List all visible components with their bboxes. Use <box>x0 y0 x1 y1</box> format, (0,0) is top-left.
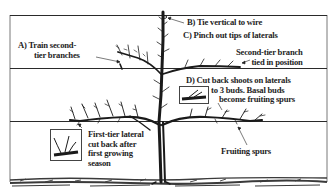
label-fruiting-spurs: Fruiting spurs <box>221 147 271 157</box>
ground <box>10 178 327 186</box>
second-tier-branches <box>116 45 240 75</box>
label-c: C) Pinch out tips of laterals <box>183 31 278 41</box>
label-d: D) Cut back shoots on laterals to 3 buds… <box>186 76 295 105</box>
label-first-tier: First-tier lateral cut back after first … <box>88 130 144 168</box>
trunk <box>152 12 170 184</box>
label-b: B) Tie vertical to wire <box>187 18 262 28</box>
espalier-diagram: A) Train second- tier branches B) Tie ve… <box>0 0 333 193</box>
cut-lateral-detail-icon <box>50 129 82 161</box>
label-a: A) Train second- tier branches <box>18 41 80 60</box>
label-second-tier: Second-tier branch tied in position <box>236 48 303 67</box>
